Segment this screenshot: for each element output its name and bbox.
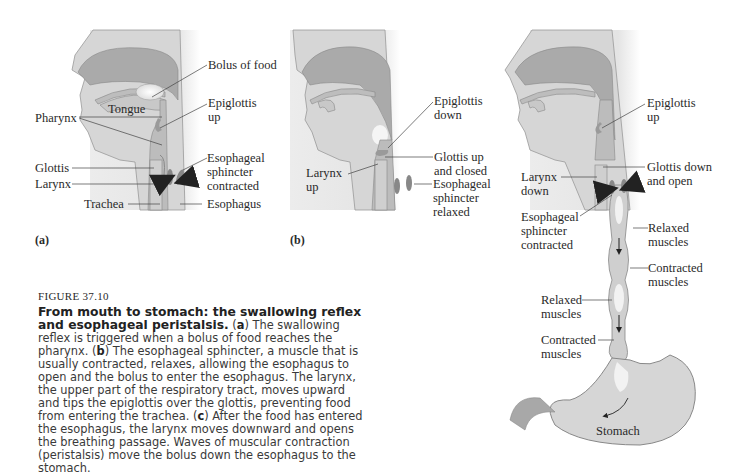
caption-body: From mouth to stomach: the swallowing re… (38, 306, 368, 475)
label-larynx: Larynx (35, 177, 71, 191)
label-esophagus: Esophagus (207, 197, 261, 211)
label-glottis-down-open: Glottis downand open (647, 160, 712, 188)
caption-letter-a: a (237, 318, 245, 332)
label-epiglottis-down: Epiglottisdown (434, 94, 483, 122)
label-relaxed-muscles-left: Relaxedmuscles (541, 293, 582, 321)
panel-label-b: (b) (290, 233, 305, 248)
label-glottis: Glottis (35, 161, 69, 175)
caption-letter-c: c (197, 409, 204, 423)
label-tongue: Tongue (108, 102, 145, 116)
figure-number: FIGURE 37.10 (38, 290, 368, 303)
label-esophageal-sphincter-contracted-a: Esophagealsphinctercontracted (207, 151, 265, 193)
label-contracted-muscles-right: Contractedmuscles (648, 261, 703, 289)
label-trachea: Trachea (84, 197, 124, 211)
label-stomach: Stomach (596, 424, 640, 438)
label-epiglottis-up-a: Epiglottisup (208, 96, 257, 124)
label-bolus-of-food: Bolus of food (208, 58, 277, 72)
label-esophageal-sphincter-contracted-c: Esophagealsphinctercontracted (521, 210, 579, 252)
panel-label-a: (a) (35, 233, 49, 248)
label-relaxed-muscles-right: Relaxedmuscles (648, 221, 689, 249)
label-larynx-down: Larynxdown (521, 170, 557, 198)
label-esophageal-sphincter-relaxed: Esophagealsphincterrelaxed (433, 177, 491, 219)
label-larynx-up: Larynxup (306, 166, 342, 194)
figure-caption: FIGURE 37.10 From mouth to stomach: the … (38, 290, 368, 475)
label-glottis-up-closed: Glottis upand closed (434, 150, 487, 178)
label-contracted-muscles-left: Contractedmuscles (541, 333, 596, 361)
caption-letter-b: b (97, 344, 105, 358)
label-pharynx: Pharynx (35, 111, 77, 125)
label-epiglottis-up-c: Epiglottisup (647, 96, 696, 124)
panel-a-illustration (72, 30, 207, 210)
